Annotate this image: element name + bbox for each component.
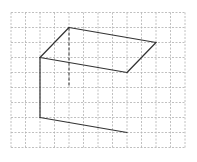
solid-edge [40,118,127,133]
solid-edge [69,28,156,43]
geometry-diagram [0,0,197,162]
